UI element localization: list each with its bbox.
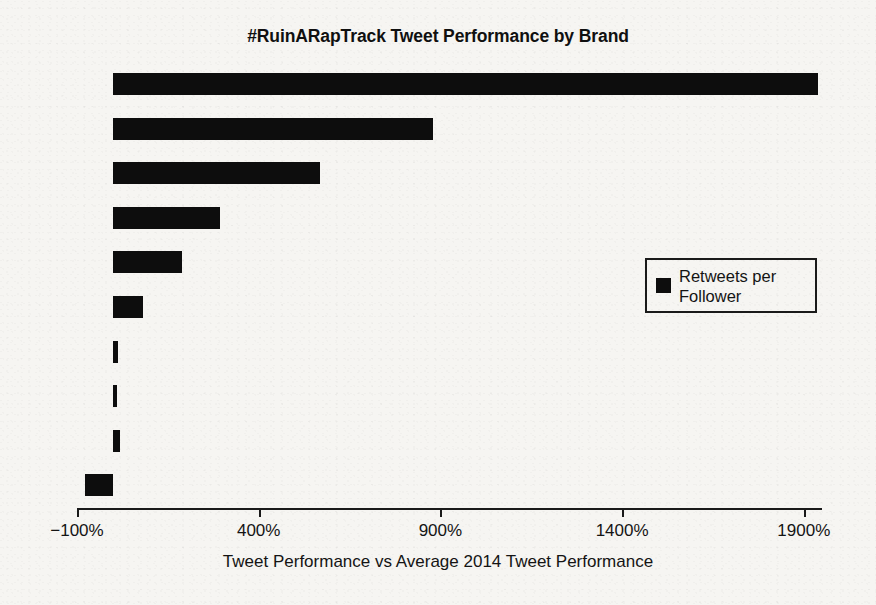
- bar: [113, 251, 182, 273]
- x-axis-tick-label: −100%: [17, 521, 137, 541]
- bar-row: [77, 62, 822, 107]
- bar: [113, 296, 143, 318]
- bar: [113, 430, 120, 452]
- legend-swatch-icon: [656, 278, 671, 293]
- chart-legend: Retweets per Follower: [645, 258, 817, 313]
- x-axis-tick-label: 1900%: [744, 521, 864, 541]
- x-axis-tick: [259, 508, 261, 517]
- bar: [113, 162, 320, 184]
- bar: [113, 341, 118, 363]
- bar: [85, 474, 113, 496]
- x-axis-tick-label: 1400%: [562, 521, 682, 541]
- bar-row: [77, 151, 822, 196]
- bar-row: [77, 330, 822, 375]
- bar-chart: #RuinARapTrack Tweet Performance by Bran…: [0, 0, 876, 605]
- x-axis-tick: [622, 508, 624, 517]
- x-axis-tick-label: 400%: [199, 521, 319, 541]
- legend-entry-label: Retweets per Follower: [679, 266, 776, 306]
- chart-title: #RuinARapTrack Tweet Performance by Bran…: [0, 26, 876, 47]
- bar-row: [77, 419, 822, 464]
- bar-row: [77, 107, 822, 152]
- x-axis-line: [77, 508, 822, 510]
- bar: [113, 385, 117, 407]
- bar: [113, 207, 219, 229]
- bar-row: [77, 463, 822, 508]
- bar: [113, 73, 818, 95]
- x-axis-tick-label: 900%: [380, 521, 500, 541]
- x-axis-tick: [804, 508, 806, 517]
- bar: [113, 118, 433, 140]
- bar-row: [77, 374, 822, 419]
- x-axis-label: Tweet Performance vs Average 2014 Tweet …: [0, 552, 876, 572]
- x-axis-tick: [77, 508, 79, 517]
- x-axis-tick: [440, 508, 442, 517]
- bar-row: [77, 196, 822, 241]
